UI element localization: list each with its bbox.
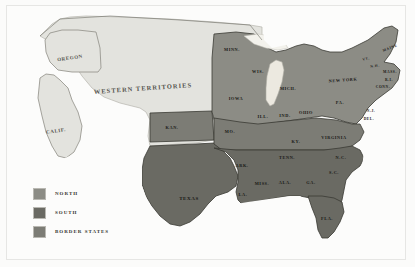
region-california [38, 74, 82, 158]
legend-label-south: SOUTH [55, 210, 78, 215]
state-texas [142, 143, 238, 226]
region-border-states [214, 118, 364, 150]
legend-item-south: SOUTH [33, 203, 143, 222]
legend-label-north: NORTH [55, 191, 78, 196]
legend-item-north: NORTH [33, 184, 143, 203]
legend-label-border: BORDER STATES [55, 229, 109, 234]
region-oregon [45, 30, 101, 72]
historical-map-figure: WESTERN TERRITORIESOREGONCALIF.MINN.WIS.… [0, 0, 415, 267]
legend-swatch-north [33, 188, 46, 200]
legend-swatch-south [33, 207, 46, 219]
map-legend: NORTHSOUTHBORDER STATES [33, 184, 143, 241]
legend-swatch-border [33, 226, 46, 238]
state-florida [308, 196, 344, 238]
state-kansas [150, 111, 214, 142]
legend-item-border: BORDER STATES [33, 222, 143, 241]
